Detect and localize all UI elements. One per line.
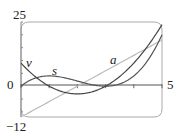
curve-v-label: v <box>26 55 32 70</box>
curve-a <box>21 40 162 117</box>
x-max-label: 5 <box>167 77 174 92</box>
chart: 25 −12 0 5 v s a <box>0 0 181 136</box>
y-bottom-label: −12 <box>6 119 26 134</box>
curve-s-label: s <box>52 63 57 78</box>
curve-v <box>21 25 162 94</box>
y-top-label: 25 <box>13 7 26 22</box>
x-origin-label: 0 <box>7 77 14 92</box>
curve-a-label: a <box>110 52 117 67</box>
